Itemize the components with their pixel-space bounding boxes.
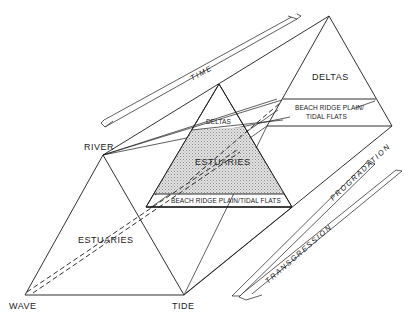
time-label: TIME [189,63,215,83]
time-arrow: TIME [101,14,301,127]
back-band-label-line2: TIDAL FLATS [306,113,347,120]
front-triangle: ESTUARIES [25,155,184,295]
tide-vertex-label: TIDE [172,301,195,311]
back-triangle: DELTAS BEACH RIDGE PLAIN/ TIDAL FLATS [267,16,392,126]
back-deltas-label: DELTAS [312,72,349,82]
middle-band-label: BEACH RIDGE PLAIN/TIDAL FLATS [171,197,281,204]
back-band-label-line1: BEACH RIDGE PLAIN/ [295,104,364,111]
front-estuaries-label: ESTUARIES [78,235,134,245]
progradation-label: PROGRADATION [328,142,392,203]
river-vertex-label: RIVER [84,142,114,152]
wave-vertex-label: WAVE [9,301,37,311]
ternary-prism-diagram: TIME PROGRADATION TRANSGRESSION DELTAS B… [0,0,413,313]
middle-estuaries-label: ESTUARIES [195,157,251,167]
middle-deltas-label: DELTAS [206,118,231,125]
middle-triangle: DELTAS ESTUARIES BEACH RIDGE PLAIN/TIDAL… [146,84,292,207]
